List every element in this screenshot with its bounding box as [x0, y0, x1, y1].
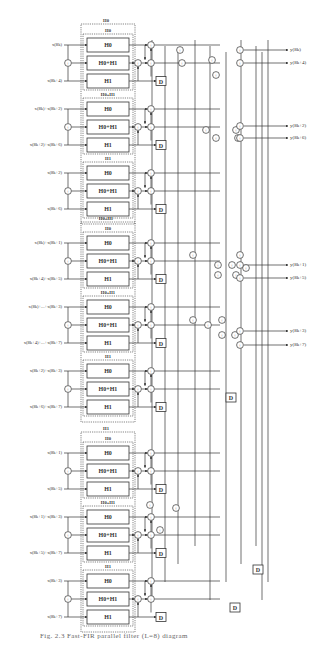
- svg-text:+: +: [150, 469, 153, 474]
- adder-icon: +: [135, 596, 142, 603]
- output-label: y(8k+4): [290, 60, 306, 65]
- output-label: y(8k+3): [290, 328, 306, 333]
- adder-icon: +: [237, 328, 244, 335]
- svg-text:+: +: [239, 253, 242, 258]
- filter-block-label: H0: [88, 578, 128, 584]
- filter-block-label: H0+H1: [88, 258, 128, 264]
- svg-text:+: +: [150, 259, 153, 264]
- filter-block-label: H0+H1: [88, 188, 128, 194]
- svg-text:+: +: [137, 189, 140, 194]
- output-label: y(8k): [290, 47, 301, 52]
- sub-group-label: H1: [78, 156, 138, 161]
- adder-icon: +: [148, 240, 155, 247]
- adder-icon: +: [229, 262, 236, 269]
- svg-text:+: +: [239, 48, 242, 53]
- adder-icon: +: [65, 532, 72, 539]
- filter-block-label: H0+H1: [88, 386, 128, 392]
- filter-block-label: H0: [88, 106, 128, 112]
- svg-text:+: +: [137, 323, 140, 328]
- sub-group-label: H0+H1: [78, 500, 138, 505]
- adder-icon: +: [65, 468, 72, 475]
- adder-icon: +: [65, 322, 72, 329]
- input-label: x(8k)+x(8k+1): [0, 240, 62, 245]
- delay-label: D: [233, 605, 238, 611]
- adder-icon: +: [148, 124, 155, 131]
- filter-block-label: H0: [88, 170, 128, 176]
- svg-text:+: +: [150, 189, 153, 194]
- filter-block-label: H0: [88, 240, 128, 246]
- filter-block-label: H0: [88, 42, 128, 48]
- output-label: y(8k+7): [290, 342, 306, 347]
- sub-group-label: H0: [78, 436, 138, 441]
- super-group-label: H0+H1: [76, 216, 136, 221]
- svg-text:+: +: [192, 318, 195, 323]
- super-group-label: H1: [76, 426, 136, 431]
- adder-icon: +: [148, 532, 155, 539]
- input-label: x(8k): [0, 42, 62, 47]
- adder-icon: +: [65, 258, 72, 265]
- svg-text:+: +: [215, 73, 218, 78]
- adder-icon: +: [237, 262, 244, 269]
- adder-icon: +: [148, 322, 155, 329]
- filter-block-label: H0+H1: [88, 596, 128, 602]
- input-label: x(8k)+...+x(8k+3): [0, 304, 62, 309]
- adder-icon: +: [135, 60, 142, 67]
- adder-icon: +: [135, 188, 142, 195]
- adder-icon: +: [213, 135, 220, 142]
- svg-text:+: +: [137, 533, 140, 538]
- svg-text:+: +: [205, 128, 208, 133]
- svg-text:+: +: [175, 506, 178, 511]
- svg-text:+: +: [67, 533, 70, 538]
- svg-text:+: +: [215, 136, 218, 141]
- delay-label: D: [159, 79, 164, 85]
- svg-text:+: +: [137, 597, 140, 602]
- delay-label: D: [159, 143, 164, 149]
- filter-block-label: H0: [88, 304, 128, 310]
- adder-icon: +: [135, 322, 142, 329]
- figure-caption: Fig. 2.3 Fast-FIR parallel filter (L=8) …: [40, 632, 188, 640]
- adder-icon: +: [148, 42, 155, 49]
- adder-icon: +: [148, 596, 155, 603]
- input-label: x(8k+1): [0, 450, 62, 455]
- filter-block-label: H1: [88, 486, 128, 492]
- adder-icon: +: [157, 527, 164, 534]
- delay-label: D: [159, 551, 164, 557]
- adder-icon: +: [219, 317, 226, 324]
- delay-label: D: [159, 277, 164, 283]
- adder-icon: +: [147, 502, 154, 509]
- filter-block-label: H1: [88, 404, 128, 410]
- svg-text:+: +: [192, 253, 195, 258]
- sub-group-label: H0+H1: [78, 92, 138, 97]
- output-label: y(8k+6): [290, 135, 306, 140]
- delay-label: D: [229, 395, 234, 401]
- input-label: x(8k+4)+x(8k+5): [0, 276, 62, 281]
- adder-icon: +: [148, 386, 155, 393]
- svg-text:+: +: [150, 305, 153, 310]
- delay-label: D: [159, 207, 164, 213]
- svg-text:+: +: [239, 276, 242, 281]
- input-label: x(8k+5): [0, 486, 62, 491]
- svg-text:+: +: [179, 48, 182, 53]
- svg-text:+: +: [211, 58, 214, 63]
- adder-icon: +: [135, 532, 142, 539]
- adder-icon: +: [173, 505, 180, 512]
- super-group-label: H0: [76, 18, 136, 23]
- adder-icon: +: [237, 47, 244, 54]
- sub-group-label: H1: [78, 564, 138, 569]
- input-label: x(8k+2): [0, 170, 62, 175]
- svg-text:+: +: [239, 329, 242, 334]
- adder-icon: +: [148, 106, 155, 113]
- filter-block-label: H1: [88, 206, 128, 212]
- svg-text:+: +: [207, 323, 210, 328]
- input-label: x(8k+2)+x(8k+3): [0, 368, 62, 373]
- output-label: y(8k+5): [290, 275, 306, 280]
- svg-text:+: +: [67, 387, 70, 392]
- svg-text:+: +: [67, 469, 70, 474]
- svg-text:+: +: [231, 263, 234, 268]
- svg-text:+: +: [150, 597, 153, 602]
- delay-label: D: [159, 341, 164, 347]
- input-label: x(8k+4)+...+x(8k+7): [0, 340, 62, 345]
- svg-text:+: +: [67, 323, 70, 328]
- filter-block-label: H1: [88, 340, 128, 346]
- svg-text:+: +: [67, 125, 70, 130]
